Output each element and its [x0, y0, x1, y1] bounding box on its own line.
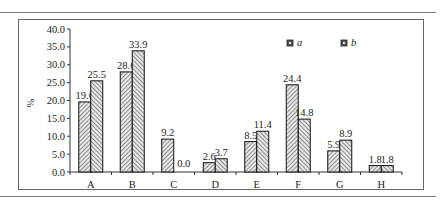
y-tick-label: 35.0: [47, 41, 65, 52]
bar-a-A: [79, 102, 91, 172]
legend-label-b: b: [351, 37, 356, 48]
value-label: 8.5: [244, 130, 257, 141]
bar-b-E: [257, 131, 269, 172]
bar-b-A: [91, 81, 103, 172]
value-label: 14.8: [295, 107, 313, 118]
y-tick-label: 15.0: [47, 113, 65, 124]
value-label: 3.7: [215, 147, 228, 158]
value-label: 11.4: [254, 119, 273, 130]
x-category-label: F: [295, 179, 301, 190]
y-tick-label: 5.0: [52, 149, 65, 160]
legend: ab: [287, 37, 356, 48]
bar-b-G: [340, 140, 352, 172]
value-label: 5.9: [327, 139, 340, 150]
bar-b-B: [132, 51, 144, 172]
bar-a-C: [162, 139, 174, 172]
legend-label-a: a: [297, 37, 302, 48]
legend-swatch-inner: [289, 42, 291, 44]
y-tick-label: 40.0: [47, 24, 65, 35]
bars: 19.625.528.033.99.20.02.63.78.511.424.41…: [76, 39, 394, 172]
x-category-label: E: [254, 179, 260, 190]
bar-chart: 0.05.010.015.020.025.030.035.040.0%ABCDE…: [0, 0, 440, 207]
bar-b-H: [381, 166, 393, 172]
value-label: 24.4: [283, 73, 302, 84]
x-category-label: D: [211, 179, 219, 190]
bar-b-D: [215, 159, 227, 172]
bar-b-F: [298, 119, 310, 172]
x-category-label: A: [87, 179, 95, 190]
x-category-label: B: [129, 179, 136, 190]
bar-a-F: [286, 85, 298, 172]
value-label: 1.8: [381, 154, 394, 165]
bar-a-E: [245, 142, 257, 172]
bar-a-H: [369, 166, 381, 172]
y-tick-label: 20.0: [47, 95, 65, 106]
value-label: 33.9: [129, 39, 147, 50]
value-label: 8.9: [339, 128, 352, 139]
y-tick-label: 10.0: [47, 131, 65, 142]
bar-a-G: [328, 151, 340, 172]
bar-a-D: [203, 163, 215, 172]
bar-a-B: [120, 72, 132, 172]
x-category-label: G: [336, 179, 344, 190]
value-label: 0.0: [177, 158, 190, 169]
x-category-label: C: [170, 179, 177, 190]
y-tick-label: 0.0: [52, 167, 65, 178]
y-tick-label: 30.0: [47, 59, 65, 70]
x-category-label: H: [377, 179, 385, 190]
value-label: 25.5: [88, 69, 106, 80]
value-label: 9.2: [161, 127, 174, 138]
legend-swatch-inner: [343, 42, 345, 44]
y-axis-label: %: [25, 98, 36, 107]
y-tick-label: 25.0: [47, 77, 65, 88]
